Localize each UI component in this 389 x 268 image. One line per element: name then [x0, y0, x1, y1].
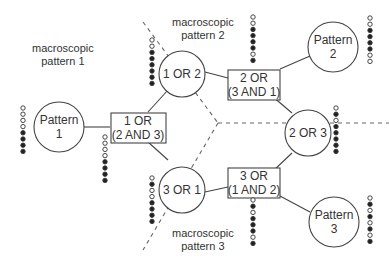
- open-dot-icon: [368, 22, 372, 26]
- filled-dot-icon: [150, 56, 154, 60]
- filled-dot-icon: [103, 166, 107, 170]
- region-label-line: pattern 1: [32, 55, 94, 68]
- filled-dot-icon: [368, 202, 372, 206]
- open-dot-icon: [251, 21, 255, 25]
- open-dot-icon: [21, 112, 25, 116]
- open-dot-icon: [150, 194, 154, 198]
- filled-dot-icon: [251, 46, 255, 50]
- filled-dot-icon: [368, 47, 372, 51]
- open-dot-icon: [150, 44, 154, 48]
- filled-dot-icon: [251, 58, 255, 62]
- open-dot-icon: [368, 53, 372, 57]
- region-label-macro2: macroscopic pattern 2: [172, 16, 234, 42]
- filled-dot-icon: [251, 216, 255, 220]
- filled-dot-icon: [103, 178, 107, 182]
- filled-dot-icon: [150, 207, 154, 211]
- or-3-1-label: 3 OR 1: [163, 183, 201, 197]
- region-label-line: macroscopic: [32, 42, 94, 55]
- open-dot-icon: [251, 198, 255, 202]
- region-label-line: pattern 2: [172, 29, 234, 42]
- filled-dot-icon: [368, 227, 372, 231]
- filled-dot-icon: [334, 149, 338, 153]
- filled-dot-icon: [21, 137, 25, 141]
- open-dot-icon: [251, 235, 255, 239]
- pattern-2-label: Pattern2: [314, 33, 353, 61]
- open-dot-icon: [150, 38, 154, 42]
- box-2-label: 2 OR(3 AND 1): [228, 71, 281, 99]
- filled-dot-icon: [150, 50, 154, 54]
- filled-dot-icon: [150, 201, 154, 205]
- filled-dot-icon: [251, 204, 255, 208]
- open-dot-icon: [103, 147, 107, 151]
- open-dot-icon: [103, 153, 107, 157]
- filled-dot-icon: [334, 124, 338, 128]
- open-dot-icon: [334, 106, 338, 110]
- filled-dot-icon: [334, 131, 338, 135]
- open-dot-icon: [21, 118, 25, 122]
- region-label-line: macroscopic: [172, 227, 234, 240]
- filled-dot-icon: [368, 41, 372, 45]
- region-label-macro3: macroscopic pattern 3: [172, 227, 234, 253]
- filled-dot-icon: [150, 213, 154, 217]
- open-dot-icon: [368, 208, 372, 212]
- filled-dot-icon: [21, 131, 25, 135]
- open-dot-icon: [368, 59, 372, 63]
- open-dot-icon: [103, 135, 107, 139]
- filled-dot-icon: [150, 219, 154, 223]
- open-dot-icon: [251, 210, 255, 214]
- filled-dot-icon: [150, 63, 154, 67]
- box-3-label: 3 OR(1 AND 2): [228, 169, 281, 197]
- filled-dot-icon: [334, 112, 338, 116]
- filled-dot-icon: [368, 214, 372, 218]
- filled-dot-icon: [251, 40, 255, 44]
- open-dot-icon: [150, 176, 154, 180]
- filled-dot-icon: [150, 81, 154, 85]
- open-dot-icon: [21, 124, 25, 128]
- filled-dot-icon: [150, 75, 154, 79]
- filled-dot-icon: [251, 33, 255, 37]
- region-label-macro1: macroscopic pattern 1: [32, 42, 94, 68]
- region-label-line: macroscopic: [172, 16, 234, 29]
- open-dot-icon: [251, 15, 255, 19]
- open-dot-icon: [368, 233, 372, 237]
- filled-dot-icon: [150, 182, 154, 186]
- open-dot-icon: [368, 196, 372, 200]
- filled-dot-icon: [334, 137, 338, 141]
- filled-dot-icon: [251, 241, 255, 245]
- filled-dot-icon: [251, 223, 255, 227]
- open-dot-icon: [368, 221, 372, 225]
- open-dot-icon: [334, 118, 338, 122]
- filled-dot-icon: [251, 229, 255, 233]
- open-dot-icon: [368, 16, 372, 20]
- open-dot-icon: [21, 106, 25, 110]
- filled-dot-icon: [368, 239, 372, 243]
- pattern-3-label: Pattern3: [315, 208, 354, 236]
- filled-dot-icon: [251, 27, 255, 31]
- filled-dot-icon: [334, 143, 338, 147]
- filled-dot-icon: [103, 172, 107, 176]
- pattern-1-label: Pattern1: [40, 113, 79, 141]
- filled-dot-icon: [21, 149, 25, 153]
- or-2-3-label: 2 OR 3: [289, 126, 327, 140]
- open-dot-icon: [251, 52, 255, 56]
- filled-dot-icon: [150, 69, 154, 73]
- region-label-line: pattern 3: [172, 240, 234, 253]
- filled-dot-icon: [21, 143, 25, 147]
- open-dot-icon: [150, 188, 154, 192]
- filled-dot-icon: [103, 160, 107, 164]
- filled-dot-icon: [368, 28, 372, 32]
- open-dot-icon: [103, 141, 107, 145]
- box-1-label: 1 OR(2 AND 3): [112, 114, 165, 142]
- filled-dot-icon: [368, 34, 372, 38]
- or-1-2-label: 1 OR 2: [163, 67, 201, 81]
